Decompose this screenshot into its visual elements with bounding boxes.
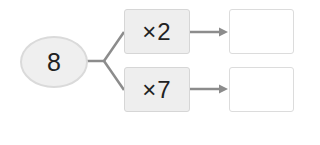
- answer-box-2[interactable]: [229, 67, 294, 112]
- arrow-icon: [190, 28, 228, 37]
- start-number: 8: [20, 36, 88, 88]
- operation-box-times-2: ×2: [124, 9, 190, 54]
- answer-box-1[interactable]: [229, 9, 294, 54]
- arrow-icon: [190, 85, 228, 94]
- operation-box-times-7: ×7: [124, 67, 190, 112]
